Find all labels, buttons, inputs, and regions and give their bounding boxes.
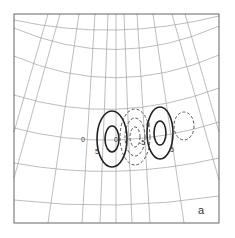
contour-label-center: 0 xyxy=(114,136,118,143)
contour-label-zero-left: 0 xyxy=(81,136,85,143)
contour-label-top-mid: 0 xyxy=(146,121,150,128)
panel-label: a xyxy=(198,204,204,216)
contour-map-figure: 0 5 0 -5 0 5 xyxy=(0,0,235,238)
contour-label-pos-right: 5 xyxy=(170,146,174,153)
contour-label-neg-center: -5 xyxy=(139,139,145,146)
contour-label-pos-left: 5 xyxy=(95,148,99,155)
